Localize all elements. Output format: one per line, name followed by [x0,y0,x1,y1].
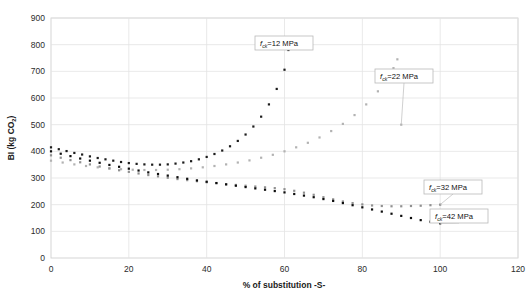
data-point [213,165,215,167]
data-point [104,158,106,160]
data-point [190,167,192,169]
data-point [254,185,256,187]
data-point [260,157,262,159]
y-tick-label: 0 [40,253,45,263]
data-point [132,169,134,171]
data-point [381,205,383,207]
data-point [143,163,145,165]
data-point [206,156,208,158]
co2-substitution-scatter-chart: 0100200300400500600700800900 02040608010… [0,0,529,301]
callout-42: fck=42 MPa [430,209,488,223]
x-tick-label: 120 [511,264,525,274]
y-tick-label: 200 [31,200,45,210]
data-point [176,176,178,178]
data-point [50,160,52,162]
data-point [361,206,363,208]
data-point [361,203,363,205]
data-point [99,165,101,167]
data-point [229,145,231,147]
data-point [303,195,305,197]
data-point [147,171,149,173]
data-point [293,190,295,192]
data-point [381,211,383,213]
data-point [342,123,344,125]
data-point [390,205,392,207]
x-tick-label: 40 [202,264,212,274]
data-point [215,182,217,184]
data-point [128,162,130,164]
data-point [396,58,398,60]
data-point [244,186,246,188]
data-point [365,103,367,105]
y-tick-label: 300 [31,173,45,183]
data-point [128,168,130,170]
data-point [167,169,169,171]
data-point [196,179,198,181]
data-point [225,183,227,185]
data-point [174,163,176,165]
data-point [313,194,315,196]
data-point [50,146,52,148]
data-point [167,163,169,165]
data-point [274,187,276,189]
data-point [237,140,239,142]
data-point [167,177,169,179]
data-point [248,159,250,161]
data-point [390,213,392,215]
data-point [274,190,276,192]
data-point [79,157,81,159]
data-point [202,166,204,168]
data-point [58,148,60,150]
data-point [276,88,278,90]
data-point [137,172,139,174]
x-tick-label: 20 [124,264,134,274]
data-point [69,159,71,161]
data-point [371,208,373,210]
data-point [50,154,52,156]
data-point [65,150,67,152]
data-point [62,161,64,163]
data-point [120,161,122,163]
data-point [157,175,159,177]
data-point [252,125,254,127]
data-point [429,204,431,206]
data-point [330,130,332,132]
data-point [322,198,324,200]
data-point [352,202,354,204]
y-tick-label: 500 [31,120,45,130]
data-point [377,90,379,92]
x-axis-title: % of substitution -S- [243,280,326,290]
data-point [410,217,412,219]
y-tick-label: 800 [31,40,45,50]
data-point [260,116,262,118]
data-point [99,162,101,164]
data-point [136,163,138,165]
data-point [79,161,81,163]
data-point [303,192,305,194]
data-point [147,174,149,176]
data-point [159,164,161,166]
data-point [244,133,246,135]
data-point [89,163,91,165]
data-point [198,158,200,160]
data-point [410,205,412,207]
callout-42-value: =42 MPa [442,212,473,221]
data-point [283,191,285,193]
data-point [225,163,227,165]
data-point [264,186,266,188]
callout-12: fck=12 MPa [255,36,313,50]
data-point [73,152,75,154]
y-tick-label: 900 [31,13,45,23]
data-point [81,153,83,155]
data-point [420,205,422,207]
data-point [353,114,355,116]
data-point [283,188,285,190]
data-point [97,166,99,168]
data-point [89,160,91,162]
data-point [307,142,309,144]
data-point [60,157,62,159]
data-point [50,150,52,152]
data-point [73,163,75,165]
data-point [151,164,153,166]
x-tick-label: 80 [358,264,368,274]
